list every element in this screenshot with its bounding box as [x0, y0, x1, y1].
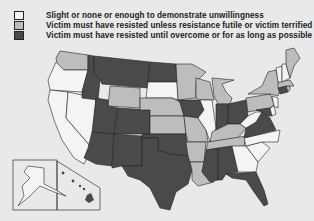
state-ak: [18, 166, 66, 206]
state-nj: [272, 96, 278, 108]
state-hi: [62, 172, 94, 203]
state-ks: [150, 116, 186, 134]
us-map: [0, 0, 314, 221]
state-wy: [108, 86, 140, 108]
state-fl: [226, 172, 268, 206]
state-ny: [248, 70, 280, 96]
state-mt: [94, 56, 150, 88]
state-nd: [148, 62, 177, 82]
state-mi: [212, 78, 234, 104]
state-sd: [146, 82, 178, 100]
state-co: [114, 108, 150, 134]
state-nm: [112, 134, 142, 168]
alaska-hawaii-inset: [13, 160, 100, 210]
state-wi: [196, 78, 214, 100]
state-ar: [186, 142, 206, 162]
